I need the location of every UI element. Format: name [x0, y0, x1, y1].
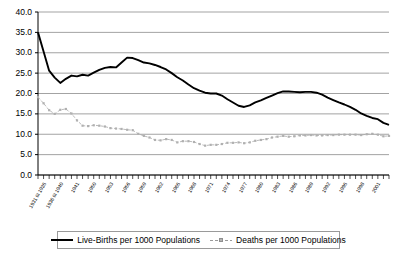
series-marker-deaths — [76, 119, 78, 121]
series-marker-deaths — [70, 112, 72, 114]
series-marker-deaths — [93, 124, 95, 126]
series-marker-deaths — [293, 135, 295, 137]
series-marker-deaths — [132, 129, 134, 131]
series-marker-deaths — [154, 139, 156, 141]
series-marker-deaths — [143, 135, 145, 137]
series-marker-deaths — [288, 136, 290, 138]
series-marker-deaths — [42, 102, 44, 104]
series-marker-deaths — [115, 127, 117, 129]
series-marker-deaths — [98, 125, 100, 127]
series-marker-deaths — [349, 134, 351, 136]
series-marker-deaths — [182, 140, 184, 142]
series-marker-deaths — [165, 138, 167, 140]
series-marker-deaths — [171, 139, 173, 141]
series-marker-deaths — [310, 134, 312, 136]
series-marker-deaths — [260, 139, 262, 141]
series-marker-deaths — [187, 140, 189, 142]
series-line-deaths — [38, 97, 389, 145]
chart-container: 0.05.010.015.020.025.030.035.040.0 1931 … — [0, 0, 396, 260]
series-line-live-births — [38, 32, 389, 125]
series-marker-deaths — [321, 134, 323, 136]
series-marker-deaths — [332, 134, 334, 136]
series-marker-deaths — [137, 133, 139, 135]
series-marker-deaths — [65, 108, 67, 110]
series-marker-deaths — [198, 143, 200, 145]
y-tick-label: 30.0 — [4, 48, 32, 57]
legend-item-live-births: Live-Births per 1000 Populations — [51, 235, 200, 245]
series-marker-deaths — [193, 141, 195, 143]
y-tick-label: 35.0 — [4, 28, 32, 37]
series-marker-deaths — [120, 128, 122, 130]
series-marker-deaths — [388, 135, 390, 137]
series-marker-deaths — [304, 134, 306, 136]
legend-label-live-births: Live-Births per 1000 Populations — [77, 235, 200, 245]
series-marker-deaths — [232, 142, 234, 144]
series-marker-deaths — [360, 134, 362, 136]
chart-legend: Live-Births per 1000 Populations Deaths … — [57, 231, 340, 249]
legend-item-deaths: Deaths per 1000 Populations — [210, 235, 346, 245]
series-marker-deaths — [226, 142, 228, 144]
series-marker-deaths — [382, 135, 384, 137]
series-marker-deaths — [237, 141, 239, 143]
y-tick-label: 5.0 — [4, 150, 32, 159]
series-marker-deaths — [282, 135, 284, 137]
data-series-layer — [37, 32, 390, 146]
series-marker-deaths — [254, 140, 256, 142]
series-marker-deaths — [366, 133, 368, 135]
series-marker-deaths — [210, 144, 212, 146]
series-marker-deaths — [299, 134, 301, 136]
series-marker-deaths — [148, 136, 150, 138]
series-marker-deaths — [276, 136, 278, 138]
legend-swatch-live-births-icon — [51, 236, 73, 245]
series-marker-deaths — [371, 133, 373, 135]
x-tick-marks — [38, 175, 389, 179]
series-marker-deaths — [81, 125, 83, 127]
series-marker-deaths — [215, 144, 217, 146]
series-marker-deaths — [109, 127, 111, 129]
series-marker-deaths — [377, 134, 379, 136]
series-marker-deaths — [315, 134, 317, 136]
series-marker-deaths — [87, 125, 89, 127]
series-marker-deaths — [59, 109, 61, 111]
series-marker-deaths — [48, 109, 50, 111]
series-marker-deaths — [249, 141, 251, 143]
series-marker-deaths — [104, 125, 106, 127]
legend-label-deaths: Deaths per 1000 Populations — [236, 235, 346, 245]
series-marker-deaths — [271, 136, 273, 138]
y-tick-label: 40.0 — [4, 8, 32, 17]
series-marker-deaths — [338, 134, 340, 136]
series-marker-deaths — [354, 134, 356, 136]
series-marker-deaths — [327, 134, 329, 136]
y-tick-label: 15.0 — [4, 109, 32, 118]
series-marker-deaths — [54, 113, 56, 115]
series-marker-deaths — [37, 96, 39, 98]
series-marker-deaths — [265, 138, 267, 140]
y-tick-label: 10.0 — [4, 130, 32, 139]
series-marker-deaths — [343, 134, 345, 136]
series-marker-deaths — [159, 139, 161, 141]
series-marker-deaths — [221, 143, 223, 145]
y-tick-label: 20.0 — [4, 89, 32, 98]
y-tick-label: 25.0 — [4, 69, 32, 78]
series-marker-deaths — [243, 142, 245, 144]
series-marker-deaths — [176, 141, 178, 143]
legend-swatch-deaths-icon — [210, 236, 232, 245]
y-tick-label: 0.0 — [4, 171, 32, 180]
series-marker-deaths — [126, 129, 128, 131]
series-marker-deaths — [204, 145, 206, 147]
